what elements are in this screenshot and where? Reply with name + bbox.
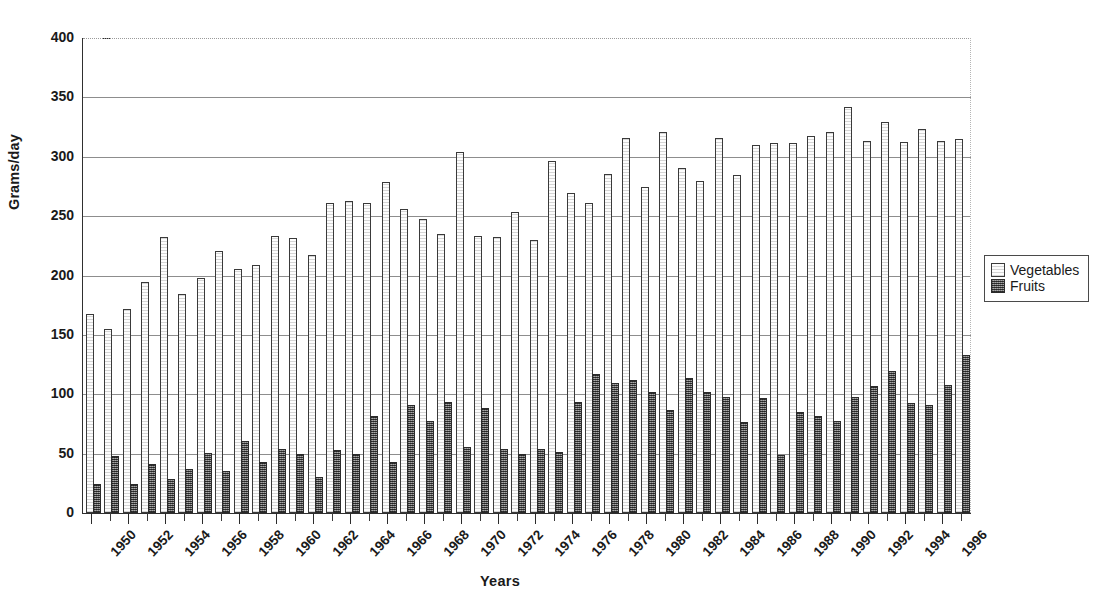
bar-group — [197, 38, 210, 513]
y-axis-title: Grams/day — [6, 30, 22, 210]
bar-fruits — [148, 464, 156, 514]
bar-group — [789, 38, 802, 513]
bar-fruits — [740, 422, 748, 513]
bar-fruits — [592, 374, 600, 513]
x-axis-tick-mark — [720, 513, 721, 524]
x-axis-tick-label: 1988 — [811, 527, 842, 559]
bar-group — [659, 38, 672, 513]
y-axis-tick-label: 0 — [28, 504, 74, 520]
x-axis-tick-label: 1972 — [515, 527, 546, 559]
x-axis-tick-mark — [221, 513, 222, 521]
bar-fruits — [259, 462, 267, 513]
x-axis-tick-mark — [350, 513, 351, 524]
y-axis-tick-label: 350 — [28, 88, 74, 104]
bar-fruits — [555, 452, 563, 513]
bar-group — [511, 38, 524, 513]
x-axis-tick-label: 1968 — [441, 527, 472, 559]
x-axis-tick-mark — [387, 513, 388, 524]
x-axis-tick-mark — [739, 513, 740, 521]
bar-group — [141, 38, 154, 513]
plot-area — [82, 38, 971, 514]
bar-fruits — [537, 449, 545, 513]
x-axis-tick-label: 1990 — [848, 527, 879, 559]
x-axis-tick-label: 1962 — [330, 527, 361, 559]
bar-group — [363, 38, 376, 513]
x-axis-tick-mark — [128, 513, 129, 524]
x-axis-tick-mark — [165, 513, 166, 524]
bar-group — [104, 38, 117, 513]
x-axis-tick-mark — [702, 513, 703, 521]
x-axis-tick-mark — [757, 513, 758, 524]
x-axis-title: Years — [0, 573, 1000, 589]
bar-group — [234, 38, 247, 513]
x-axis-tick-mark — [535, 513, 536, 524]
x-axis-tick-mark — [572, 513, 573, 524]
bar-group — [400, 38, 413, 513]
x-axis-tick-label: 1964 — [367, 527, 398, 559]
bar-group — [937, 38, 950, 513]
bar-fruits — [833, 421, 841, 513]
x-axis-tick-mark — [924, 513, 925, 521]
bar-group — [955, 38, 968, 513]
legend-item-fruits: Fruits — [991, 279, 1079, 293]
bar-fruits — [167, 479, 175, 513]
x-axis-tick-label: 1960 — [293, 527, 324, 559]
bar-fruits — [407, 405, 415, 513]
legend-item-vegetables: Vegetables — [991, 263, 1079, 277]
y-axis-tick-label: 400 — [28, 29, 74, 45]
bar-fruits — [296, 454, 304, 513]
bar-group — [493, 38, 506, 513]
x-axis-tick-mark — [517, 513, 518, 521]
x-axis-tick-mark — [591, 513, 592, 521]
vegetables-swatch-icon — [991, 263, 1005, 277]
bar-group — [752, 38, 765, 513]
bar-fruits — [722, 397, 730, 513]
bar-group — [160, 38, 173, 513]
x-axis-tick-mark — [480, 513, 481, 521]
x-axis-tick-mark — [609, 513, 610, 524]
x-axis-tick-mark — [868, 513, 869, 524]
bar-group — [252, 38, 265, 513]
x-axis-tick-label: 1978 — [626, 527, 657, 559]
legend-label-vegetables: Vegetables — [1010, 263, 1079, 277]
bar-fruits — [870, 386, 878, 513]
bar-group — [622, 38, 635, 513]
y-axis-tick-label: 150 — [28, 326, 74, 342]
y-axis-tick-label: 200 — [28, 267, 74, 283]
legend-label-fruits: Fruits — [1010, 279, 1045, 293]
x-axis-tick-mark — [831, 513, 832, 524]
x-axis-tick-mark — [461, 513, 462, 524]
x-axis-tick-mark — [498, 513, 499, 524]
bar-group — [548, 38, 561, 513]
x-axis-tick-label: 1996 — [959, 527, 990, 559]
fruits-swatch-icon — [991, 279, 1005, 293]
x-axis-tick-mark — [424, 513, 425, 524]
bar-fruits — [796, 412, 804, 513]
x-axis-tick-label: 1986 — [774, 527, 805, 559]
x-axis-tick-mark — [184, 513, 185, 521]
bar-series-container — [83, 38, 971, 513]
x-axis-tick-mark — [295, 513, 296, 521]
bar-group — [86, 38, 99, 513]
bar-group — [382, 38, 395, 513]
chart-legend: Vegetables Fruits — [984, 255, 1089, 302]
bar-group — [271, 38, 284, 513]
bar-group — [770, 38, 783, 513]
bar-group — [345, 38, 358, 513]
x-axis-tick-mark — [794, 513, 795, 524]
x-axis-tick-mark — [961, 513, 962, 521]
bar-fruits — [463, 447, 471, 513]
bar-group — [641, 38, 654, 513]
bar-chart: Grams/day 050100150200250300350400 19501… — [0, 0, 1108, 611]
x-axis-tick-label: 1994 — [922, 527, 953, 559]
y-axis-tick-label: 300 — [28, 148, 74, 164]
x-axis-tick-mark — [147, 513, 148, 521]
x-axis-tick-mark — [683, 513, 684, 524]
bar-group — [178, 38, 191, 513]
bar-fruits — [204, 453, 212, 513]
bar-fruits — [241, 441, 249, 513]
bar-vegetables — [123, 309, 131, 513]
x-axis-tick-label: 1954 — [182, 527, 213, 559]
x-axis-tick-mark — [813, 513, 814, 521]
bar-fruits — [777, 455, 785, 513]
